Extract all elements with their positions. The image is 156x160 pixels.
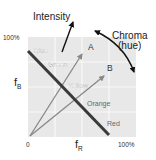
color-label-green: Green (48, 61, 68, 68)
color-label-red: Red (107, 120, 120, 127)
x-axis-max-label: 100% (118, 141, 135, 148)
color-label-orange: Orange (87, 100, 110, 108)
color-label-blue: Blue (34, 47, 48, 54)
color-label-yellow: Yellow (68, 82, 89, 89)
vector-a-label: A (88, 42, 94, 52)
vector-b-label: B (107, 63, 113, 73)
y-axis-max-label: 100% (3, 34, 20, 41)
x-axis-min-label: 0 (26, 141, 30, 148)
y-axis-label: fB (14, 76, 21, 90)
chromaticity-diagram: Intensity Chroma (hue) 100% fB 0 fR 100%… (0, 0, 156, 160)
hue-label: (hue) (118, 40, 141, 51)
intensity-label: Intensity (33, 11, 70, 22)
x-axis-label: fR (75, 138, 83, 152)
